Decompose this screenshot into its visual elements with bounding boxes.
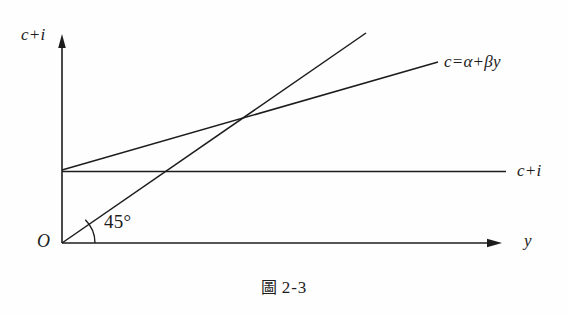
keynesian-cross-diagram [0, 0, 568, 314]
consumption-function-label: c=α+βy [444, 53, 501, 70]
figure-container: c+i y O 45° c=α+βy c+i 圖2-3 [0, 0, 568, 314]
x-axis-arrowhead [487, 239, 502, 247]
caption-figure-number: 2-3 [282, 278, 308, 297]
x-axis-label: y [524, 232, 532, 249]
autonomous-expenditure-label: c+i [517, 162, 541, 179]
origin-label: O [37, 232, 50, 250]
figure-caption: 圖2-3 [0, 274, 568, 298]
consumption-function-line [62, 62, 438, 170]
caption-figure-word: 圖 [261, 278, 278, 297]
y-axis-label: c+i [21, 26, 45, 43]
y-axis-arrowhead [58, 34, 66, 48]
angle-label: 45° [104, 212, 131, 231]
